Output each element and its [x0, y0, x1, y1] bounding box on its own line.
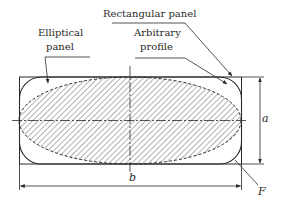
- rectangular-panel-label: Rectangular panel: [103, 8, 196, 20]
- dimension-b-label: b: [129, 172, 136, 184]
- elliptical-panel-label-line1: Elliptical: [38, 27, 83, 39]
- arbitrary-profile-label-line2: profile: [140, 41, 173, 53]
- point-f-label: F: [258, 186, 266, 198]
- panel-profile-diagram: Rectangular panel Elliptical panel Arbit…: [0, 0, 283, 200]
- dimension-a-label: a: [262, 113, 269, 125]
- elliptical-panel-label-line2: panel: [46, 41, 74, 53]
- elliptical-panel-leader: [45, 57, 90, 83]
- arbitrary-profile-label-line1: Arbitrary: [134, 27, 181, 39]
